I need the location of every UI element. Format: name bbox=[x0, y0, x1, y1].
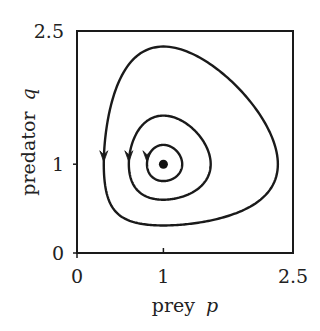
x-axis-word: prey bbox=[152, 294, 195, 316]
arrow-down-icon bbox=[143, 151, 151, 162]
y-axis-label: predator q bbox=[17, 88, 39, 195]
orbit-curves bbox=[100, 47, 278, 226]
equilibrium-point bbox=[159, 160, 168, 169]
x-tick-label-0: 0 bbox=[71, 265, 83, 287]
x-axis-label: prey p bbox=[152, 294, 218, 316]
orbit-2 bbox=[129, 116, 211, 200]
orbit-1 bbox=[104, 47, 278, 226]
y-tick-label-2: 2.5 bbox=[34, 20, 64, 42]
x-tick-label-2: 2.5 bbox=[278, 265, 308, 287]
y-tick-label-0: 0 bbox=[52, 242, 64, 264]
y-axis-word: predator bbox=[17, 111, 39, 196]
plot-frame bbox=[77, 31, 293, 253]
x-tick-label-1: 1 bbox=[157, 265, 169, 287]
phase-portrait-chart: 0 1 2.5 0 1 2.5 prey p predator q bbox=[0, 0, 320, 331]
y-tick-label-1: 1 bbox=[52, 153, 64, 175]
x-axis-variable: p bbox=[206, 294, 218, 316]
y-axis-variable: q bbox=[17, 88, 39, 100]
